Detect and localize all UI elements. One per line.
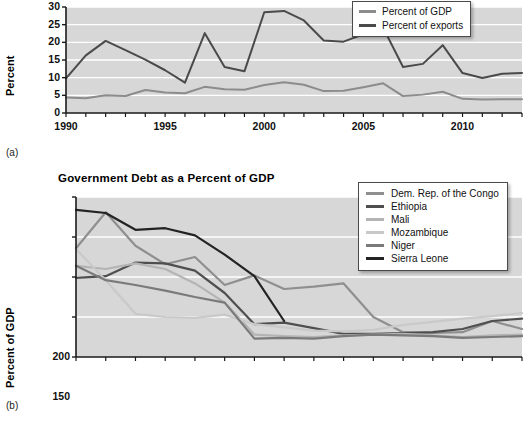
legend-line-swatch: [366, 257, 384, 260]
panel-a-legend: Percent of GDPPercent of exports: [352, 1, 471, 37]
legend-item: Ethiopia: [366, 201, 499, 212]
panel-a-external-debt-chart: Percent 051015202530 1990199520002005201…: [0, 0, 524, 160]
legend-line-swatch: [359, 24, 376, 27]
legend-line-swatch: [366, 231, 384, 234]
legend-item-label: Mali: [391, 214, 409, 225]
panel-b-government-debt-chart: Government Debt as a Percent of GDP Perc…: [0, 160, 524, 422]
legend-line-swatch: [359, 10, 376, 13]
legend-item-label: Mozambique: [391, 227, 448, 238]
legend-item: Sierra Leone: [366, 253, 499, 264]
legend-line-swatch: [366, 205, 384, 208]
panel-b-y-axis-title: Percent of GDP: [4, 307, 16, 388]
legend-item: Mali: [366, 214, 499, 225]
legend-item: Dem. Rep. of the Congo: [366, 188, 499, 199]
legend-item-label: Ethiopia: [391, 201, 427, 212]
legend-item: Mozambique: [366, 227, 499, 238]
legend-item-label: Percent of exports: [382, 20, 463, 31]
panel-b-tag: (b): [6, 400, 18, 411]
legend-line-swatch: [366, 218, 384, 221]
panel-b-legend: Dem. Rep. of the CongoEthiopiaMaliMozamb…: [358, 182, 508, 271]
legend-item-label: Sierra Leone: [391, 253, 448, 264]
y-tick-label: 150: [36, 390, 70, 402]
legend-item: Niger: [366, 240, 499, 251]
legend-item-label: Percent of GDP: [382, 6, 452, 17]
legend-item: Percent of exports: [359, 20, 463, 31]
legend-item-label: Dem. Rep. of the Congo: [391, 188, 499, 199]
legend-item-label: Niger: [391, 240, 415, 251]
legend-item: Percent of GDP: [359, 6, 463, 17]
legend-line-swatch: [366, 192, 384, 195]
panel-b-title: Government Debt as a Percent of GDP: [58, 172, 275, 184]
legend-line-swatch: [366, 244, 384, 247]
panel-a-tag: (a): [6, 147, 18, 158]
panel-a-y-axis-title: Percent: [4, 56, 16, 96]
